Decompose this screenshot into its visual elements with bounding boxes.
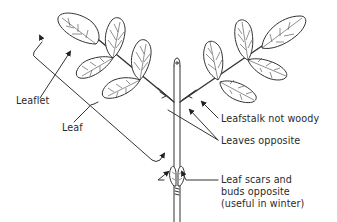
label-leaf-scars-3: (useful in winter) [221, 198, 304, 210]
leader-lines [33, 36, 218, 180]
left-leaf [58, 13, 174, 102]
leaflet-right-lower [248, 58, 287, 80]
label-leaves-opposite: Leaves opposite [221, 135, 300, 147]
label-leaflet: Leaflet [16, 95, 49, 107]
leaflet-right-lower-2 [220, 80, 256, 103]
leaflet-left-lower-2 [102, 78, 140, 99]
opposite-buds [170, 166, 185, 186]
label-leafstalk: Leafstalk not woody [221, 113, 319, 125]
leaflet-left-upper [105, 18, 125, 58]
leaflet-left-lower [76, 57, 113, 79]
compound-leaf-diagram: Leaflet Leaf Leafstalk not woody Leaves … [0, 0, 337, 222]
stem [174, 58, 180, 222]
label-leaf: Leaf [62, 122, 83, 134]
label-leaf-scars-1: Leaf scars and [221, 174, 292, 186]
label-leaf-scars-2: buds opposite [221, 186, 290, 198]
leaflet-right-upper-2 [204, 41, 223, 80]
leaflet-right-upper [235, 20, 253, 60]
leaflet-left-terminal [58, 13, 99, 44]
right-leaf [180, 16, 306, 103]
leaflet-right-terminal [262, 16, 306, 49]
leaflet-left-upper-2 [131, 40, 151, 80]
